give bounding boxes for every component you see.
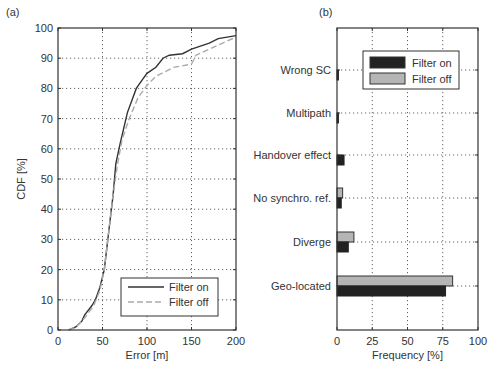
category-label: Multipath <box>286 107 331 119</box>
y-tick-label: 20 <box>41 264 53 276</box>
category-label: Diverge <box>293 236 331 248</box>
bar-filter-off <box>337 188 343 198</box>
x-tick-label: 0 <box>334 335 340 347</box>
legend: Filter onFilter off <box>363 51 459 89</box>
y-tick-label: 70 <box>41 113 53 125</box>
legend-label: Filter on <box>412 57 452 69</box>
x-tick-label: 100 <box>138 335 156 347</box>
y-tick-label: 10 <box>41 294 53 306</box>
x-tick-label: 50 <box>401 335 413 347</box>
x-axis-label: Frequency [%] <box>372 349 443 361</box>
panel-label: (b) <box>319 6 332 18</box>
category-label: No synchro. ref. <box>253 192 331 204</box>
legend-label: Filter off <box>169 296 209 308</box>
x-tick-label: 200 <box>227 335 245 347</box>
x-tick-label: 50 <box>96 335 108 347</box>
legend: Filter onFilter off <box>121 278 218 316</box>
bar-filter-on <box>337 198 341 208</box>
panel-label: (a) <box>6 6 19 18</box>
y-tick-label: 60 <box>41 143 53 155</box>
x-tick-label: 25 <box>366 335 378 347</box>
x-tick-label: 100 <box>469 335 487 347</box>
legend-swatch-filter-on <box>370 57 405 68</box>
bar-filter-on <box>337 155 344 165</box>
y-tick-label: 100 <box>35 22 53 34</box>
cdf-chart-panel: (a)0501001502000102030405060708090100Err… <box>6 6 245 361</box>
category-label: Handover effect <box>254 149 331 161</box>
legend-label: Filter on <box>169 281 209 293</box>
x-axis-label: Error [m] <box>126 349 169 361</box>
bar-filter-on <box>337 286 446 296</box>
x-tick-label: 75 <box>437 335 449 347</box>
y-tick-label: 90 <box>41 52 53 64</box>
y-tick-label: 80 <box>41 82 53 94</box>
y-tick-label: 0 <box>47 324 53 336</box>
category-label: Geo-located <box>271 280 331 292</box>
frequency-bar-chart-panel: (b)Wrong SCMultipathHandover effectNo sy… <box>253 6 487 361</box>
category-label: Wrong SC <box>280 64 331 76</box>
bar-filter-on <box>337 242 348 252</box>
y-tick-label: 40 <box>41 203 53 215</box>
x-tick-label: 0 <box>55 335 61 347</box>
legend-swatch-filter-off <box>370 73 405 84</box>
bar-filter-off <box>337 232 354 242</box>
y-axis-label: CDF [%] <box>15 158 27 200</box>
legend-label: Filter off <box>412 73 452 85</box>
figure: (a)0501001502000102030405060708090100Err… <box>0 0 501 375</box>
y-tick-label: 30 <box>41 233 53 245</box>
y-tick-label: 50 <box>41 173 53 185</box>
bar-filter-off <box>337 276 453 286</box>
x-tick-label: 150 <box>182 335 200 347</box>
